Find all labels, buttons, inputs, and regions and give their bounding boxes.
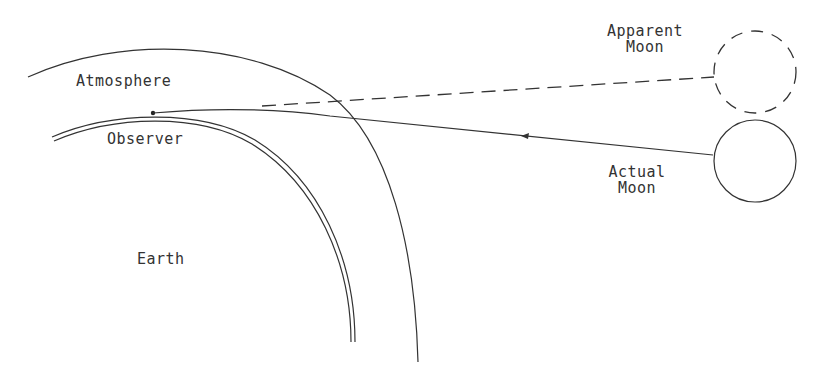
earth-label: Earth (137, 251, 185, 267)
earth-surface-arc-inner (54, 121, 351, 342)
apparent-moon-circle (714, 31, 796, 113)
apparent-line-of-sight (262, 77, 714, 106)
apparent-moon-label-line1: Apparent (600, 23, 690, 39)
refracted-light-path (153, 110, 713, 155)
refraction-diagram (0, 0, 815, 379)
light-direction-arrow-icon (521, 133, 529, 139)
atmosphere-label: Atmosphere (76, 73, 171, 89)
actual-moon-label-line1: Actual (602, 164, 672, 180)
earth-surface-arc-outer (52, 117, 355, 342)
actual-moon-circle (714, 120, 796, 202)
atmosphere-boundary-arc (28, 49, 418, 362)
apparent-moon-label: Apparent Moon (600, 23, 690, 55)
apparent-moon-label-line2: Moon (600, 39, 690, 55)
observer-label: Observer (107, 131, 183, 147)
actual-moon-label-line2: Moon (602, 180, 672, 196)
actual-moon-label: Actual Moon (602, 164, 672, 196)
